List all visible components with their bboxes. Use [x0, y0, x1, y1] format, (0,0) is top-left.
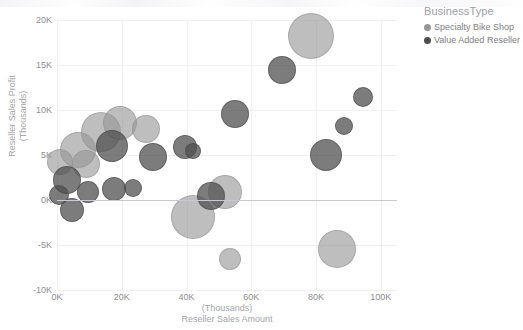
bubble-point[interactable] [132, 115, 160, 143]
gridline-horizontal [57, 65, 397, 66]
legend-item-label: Specialty Bike Shop [434, 21, 514, 33]
y-axis-tick-label: -10K [33, 285, 52, 295]
bubble-point[interactable] [288, 13, 334, 59]
bubble-point[interactable] [96, 130, 128, 162]
x-axis-tick-label: 20K [114, 292, 130, 303]
x-axis-tick-label: 40K [179, 292, 195, 303]
y-axis-title-text: Reseller Sales Profit [7, 75, 17, 157]
bubble-point[interactable] [318, 230, 356, 268]
legend-swatch-icon [424, 37, 431, 44]
zero-reference-line [57, 200, 397, 201]
x-axis-tick-label: 100K [370, 292, 391, 303]
bubble-point[interactable] [221, 100, 249, 128]
x-axis-title-text: Reseller Sales Amount [181, 314, 272, 324]
bubble-point[interactable] [124, 179, 142, 197]
x-axis-tick-label: 80K [308, 292, 324, 303]
y-axis-tick-label: -5K [38, 240, 52, 250]
gridline-horizontal [57, 290, 397, 291]
legend-title: BusinessType [424, 5, 523, 18]
x-axis-title: (Thousands) Reseller Sales Amount [57, 303, 397, 325]
x-axis-unit-text: (Thousands) [57, 303, 397, 314]
y-axis-tick-label: 15K [36, 60, 52, 70]
bubble-point[interactable] [185, 143, 201, 159]
x-axis-tick-label: 60K [243, 292, 259, 303]
plot-area[interactable] [57, 20, 397, 290]
bubble-point[interactable] [197, 182, 225, 210]
bubble-point[interactable] [139, 143, 167, 171]
legend: BusinessType Specialty Bike Shop Value A… [424, 5, 523, 47]
legend-item-specialty-bike-shop[interactable]: Specialty Bike Shop [424, 21, 523, 33]
y-axis-tick-label: 10K [36, 105, 52, 115]
y-axis-tick-label: 20K [36, 15, 52, 25]
bubble-point[interactable] [353, 87, 373, 107]
bubble-point[interactable] [335, 117, 353, 135]
bubble-point[interactable] [268, 56, 296, 84]
y-axis-unit-text: (Thousands) [18, 91, 28, 142]
legend-item-label: Value Added Reseller [434, 34, 520, 46]
bubble-point[interactable] [310, 139, 342, 171]
bubble-chart: 20K15K10K5K0K-5K-10K Reseller Sales Prof… [0, 0, 523, 330]
bubble-point[interactable] [102, 177, 126, 201]
legend-swatch-icon [424, 24, 431, 31]
bubble-point[interactable] [219, 248, 241, 270]
x-axis-tick-label: 0K [51, 292, 62, 303]
bubble-point[interactable] [60, 198, 84, 222]
legend-item-value-added-reseller[interactable]: Value Added Reseller [424, 34, 523, 46]
gridline-horizontal [57, 20, 397, 21]
y-axis-title: Reseller Sales Profit (Thousands) [7, 56, 29, 176]
